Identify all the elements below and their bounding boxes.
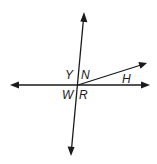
- label-h: H: [122, 72, 131, 86]
- arrowhead-top-icon: [80, 12, 87, 22]
- transversal-line: [68, 12, 88, 156]
- label-r: R: [79, 88, 88, 102]
- label-w: W: [62, 88, 75, 102]
- arrowhead-bottom-icon: [68, 147, 75, 157]
- label-y: Y: [65, 68, 74, 82]
- arrowhead-right-icon: [141, 82, 150, 89]
- arrowhead-left-icon: [10, 82, 19, 89]
- label-n: N: [81, 68, 90, 82]
- arrowhead-ray-icon: [138, 62, 147, 69]
- geometry-diagram: Y N H W R: [0, 0, 157, 164]
